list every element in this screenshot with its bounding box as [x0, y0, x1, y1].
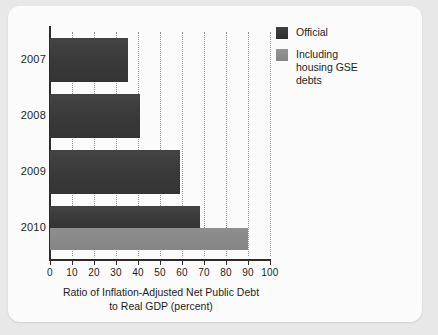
x-axis-title-line-1: Ratio of Inflation-Adjusted Net Public D…: [63, 286, 259, 298]
legend-entry-gse: Includinghousing GSEdebts: [276, 48, 416, 87]
x-tick-label: 90: [236, 267, 260, 278]
gridline: [204, 32, 205, 256]
gridline: [248, 32, 249, 256]
x-axis-title-line-2: to Real GDP (percent): [28, 299, 294, 313]
x-tick-mark: [204, 260, 205, 265]
bar-2007-official: [50, 38, 128, 82]
figure-card: 2007200820092010 0102030405060708090100 …: [8, 6, 422, 322]
x-tick-mark: [270, 260, 271, 265]
x-tick-mark: [50, 260, 51, 265]
plot-area: [50, 32, 270, 256]
category-label-2008: 2008: [8, 109, 46, 121]
bar-2010-official: [50, 206, 200, 228]
x-tick-mark: [226, 260, 227, 265]
bar-chart: 2007200820092010 0102030405060708090100 …: [8, 6, 422, 322]
x-tick-label: 40: [126, 267, 150, 278]
bar-2009-official: [50, 150, 180, 194]
x-tick-mark: [248, 260, 249, 265]
x-tick-mark: [94, 260, 95, 265]
gridline: [226, 32, 227, 256]
legend-swatch-icon: [276, 27, 288, 39]
legend-swatch-icon: [276, 49, 288, 61]
x-tick-mark: [116, 260, 117, 265]
legend-label: Official: [296, 26, 328, 39]
x-tick-label: 10: [60, 267, 84, 278]
x-tick-label: 70: [192, 267, 216, 278]
category-axis-labels: 2007200820092010: [8, 32, 46, 256]
x-tick-label: 0: [38, 267, 62, 278]
bar-2010-gse: [50, 228, 248, 250]
legend: OfficialIncludinghousing GSEdebts: [276, 26, 416, 96]
legend-label: Includinghousing GSEdebts: [296, 48, 358, 87]
x-tick-label: 50: [148, 267, 172, 278]
x-tick-mark: [72, 260, 73, 265]
x-tick-label: 60: [170, 267, 194, 278]
x-tick-label: 20: [82, 267, 106, 278]
x-tick-label: 100: [258, 267, 282, 278]
gridline: [270, 32, 271, 256]
bar-2008-official: [50, 94, 140, 138]
x-tick-label: 80: [214, 267, 238, 278]
x-tick-label: 30: [104, 267, 128, 278]
legend-entry-official: Official: [276, 26, 416, 39]
x-tick-mark: [138, 260, 139, 265]
category-label-2009: 2009: [8, 165, 46, 177]
category-label-2010: 2010: [8, 221, 46, 233]
x-axis-title: Ratio of Inflation-Adjusted Net Public D…: [28, 285, 294, 313]
x-tick-mark: [182, 260, 183, 265]
x-tick-mark: [160, 260, 161, 265]
category-label-2007: 2007: [8, 53, 46, 65]
